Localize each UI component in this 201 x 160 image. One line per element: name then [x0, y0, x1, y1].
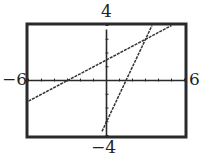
y-max-label: 4 — [101, 3, 112, 20]
x-min-label: −6 — [2, 71, 27, 88]
line-2-graph — [102, 26, 152, 132]
line-1-graph — [29, 26, 172, 102]
x-max-label: 6 — [189, 71, 200, 88]
y-min-label: −4 — [91, 139, 116, 156]
graph-canvas — [0, 0, 201, 160]
plot-lines — [29, 26, 172, 132]
